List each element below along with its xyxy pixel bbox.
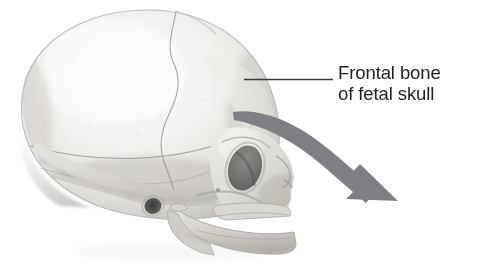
annotation-overlay: [0, 0, 483, 267]
annotation-label-line2: of fetal skull: [338, 83, 483, 104]
curved-arrow-shaft: [233, 111, 376, 203]
curved-arrow-head: [346, 164, 398, 201]
fetal-skull-figure: Frontal bone of fetal skull: [0, 0, 483, 267]
annotation-label: Frontal bone of fetal skull: [338, 62, 483, 104]
curved-arrow: [233, 111, 398, 203]
annotation-label-line1: Frontal bone: [338, 62, 483, 83]
